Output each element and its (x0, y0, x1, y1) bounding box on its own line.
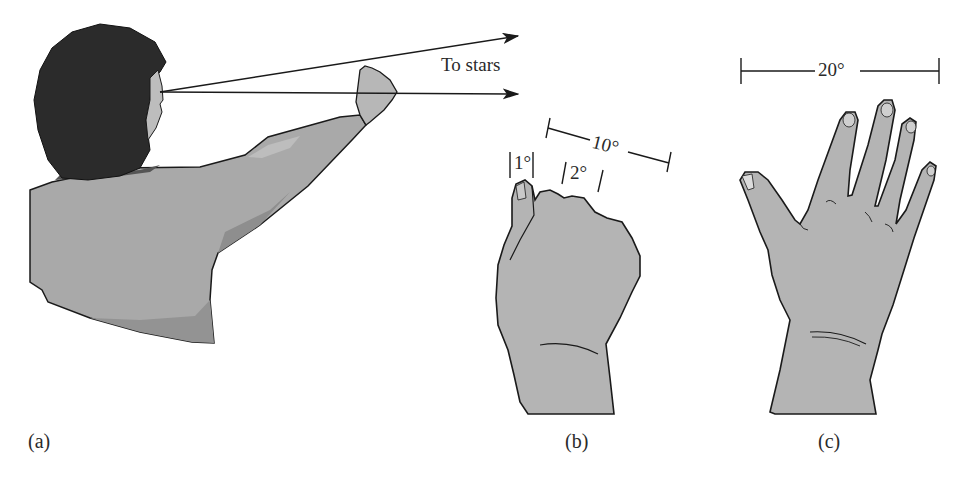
lower-sight-arrow (160, 92, 518, 94)
knuckles-2deg-label: 2° (570, 162, 587, 184)
panel-a-label: (a) (28, 430, 50, 453)
panel-b-label: (b) (565, 430, 588, 453)
open-hand (740, 100, 936, 414)
fist-measurements (510, 118, 671, 192)
hand-20deg-label: 20° (818, 59, 845, 81)
to-stars-label: To stars (441, 54, 500, 76)
hair (34, 24, 166, 180)
panel-c-illustration (740, 100, 936, 414)
panel-c-label: (c) (818, 430, 840, 453)
panel-b-illustration (496, 180, 640, 414)
fist (496, 180, 640, 414)
finger-1deg-label: 1° (514, 152, 531, 174)
outstretched-fist (356, 66, 397, 125)
panel-a-illustration (30, 24, 397, 343)
